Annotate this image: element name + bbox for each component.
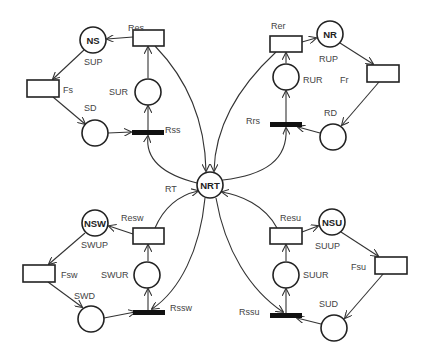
place-swd-place	[78, 306, 104, 332]
label-rur: RUR	[303, 75, 323, 85]
arc	[148, 136, 197, 183]
transition-rer	[270, 36, 302, 52]
labels-layer: NSResSUPFsSURSDRssNRRerRUPRURFrRDRrsNSWR…	[61, 21, 366, 317]
place-label: NRT	[200, 180, 220, 191]
immediate-transition-rssu	[270, 313, 302, 318]
label-rd: RD	[324, 108, 337, 118]
place-sd-place	[82, 120, 108, 146]
transition-fsw	[23, 265, 55, 282]
label-sud: SUD	[319, 299, 339, 309]
place-sur-place	[135, 79, 161, 105]
arc	[302, 226, 318, 232]
transition-resw	[133, 228, 164, 244]
arc	[302, 38, 316, 42]
arc	[155, 46, 206, 171]
label-sur: SUR	[109, 87, 129, 97]
label-rssw: Rssw	[170, 303, 192, 313]
label-resw: Resw	[121, 213, 144, 223]
place-rur-place	[273, 64, 299, 90]
label-resu: Resu	[280, 213, 301, 223]
arc	[342, 82, 379, 125]
label-fsw: Fsw	[61, 270, 78, 280]
arc	[104, 312, 135, 318]
immediate-transition-rrs	[270, 122, 302, 127]
arc	[108, 132, 131, 133]
label-swd: SWD	[74, 291, 95, 301]
arc	[152, 198, 205, 309]
arc	[53, 97, 85, 124]
label-fr: Fr	[340, 75, 349, 85]
arc	[49, 233, 85, 264]
label-sd: SD	[84, 103, 97, 113]
arc	[297, 318, 321, 324]
place-suur-place	[273, 262, 299, 288]
label-rrs: Rrs	[246, 116, 260, 126]
place-swur-place	[134, 262, 160, 288]
arc	[345, 273, 384, 318]
arc	[155, 191, 198, 228]
label-rer: Rer	[271, 21, 286, 31]
transition-fs	[27, 80, 59, 97]
arc	[340, 43, 373, 64]
label-suup: SUUP	[315, 241, 340, 251]
place-label: NSU	[322, 217, 342, 228]
arc	[298, 127, 320, 133]
place-label: NS	[86, 35, 99, 46]
label-res: Res	[128, 23, 145, 33]
label-rssu: Rssu	[239, 307, 260, 317]
arc	[53, 50, 84, 79]
petri-net-diagram: NSResSUPFsSURSDRssNRRerRUPRURFrRDRrsNSWR…	[0, 0, 427, 359]
arc	[216, 198, 283, 312]
arc	[341, 232, 378, 256]
label-sup: SUP	[84, 57, 103, 67]
label-fs: Fs	[63, 85, 73, 95]
transition-fsu	[375, 257, 407, 274]
label-rss: Rss	[165, 125, 181, 135]
place-label: NR	[323, 29, 337, 40]
arc	[109, 226, 133, 234]
place-sud-place	[321, 315, 347, 341]
immediate-transition-rssw	[133, 310, 165, 315]
label-swur: SWUR	[101, 270, 129, 280]
label-rup: RUP	[319, 54, 338, 64]
arc	[222, 192, 277, 228]
arc	[107, 37, 133, 39]
transition-resu	[270, 228, 302, 244]
arc	[223, 128, 286, 180]
immediate-transition-rss	[132, 130, 164, 135]
label-suur: SUUR	[303, 270, 329, 280]
transition-fr	[367, 65, 399, 82]
arc	[214, 52, 276, 171]
label-swup: SWUP	[81, 240, 108, 250]
place-label: NSW	[84, 218, 106, 229]
label-rt: RT	[165, 184, 177, 194]
place-rd-place	[320, 124, 346, 150]
label-fsu: Fsu	[351, 262, 366, 272]
